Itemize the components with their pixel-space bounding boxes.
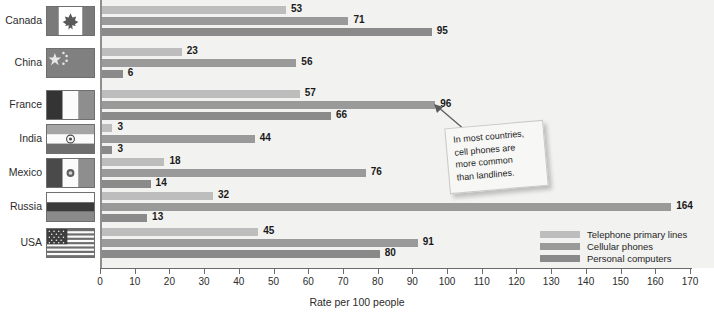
flag-china-icon — [46, 48, 95, 78]
bar — [102, 101, 435, 109]
bar — [102, 228, 258, 236]
country-label-russia: Russia — [0, 200, 42, 212]
bar-value-label: 76 — [371, 168, 382, 176]
legend: Telephone primary lines Cellular phones … — [540, 228, 687, 264]
x-tick — [274, 268, 275, 274]
x-tick-label: 80 — [372, 276, 383, 287]
legend-swatch-icon — [540, 255, 580, 262]
x-tick-label: 10 — [129, 276, 140, 287]
bar — [102, 48, 182, 56]
flag-canada-icon — [46, 6, 95, 36]
flag-india-icon — [46, 124, 95, 154]
bar-value-label: 3 — [117, 123, 123, 131]
x-tick — [516, 268, 517, 274]
x-tick-label: 70 — [337, 276, 348, 287]
bar-value-label: 18 — [169, 157, 180, 165]
x-tick-label: 40 — [233, 276, 244, 287]
bar — [102, 17, 348, 25]
bar — [102, 214, 147, 222]
bar-value-label: 13 — [152, 213, 163, 221]
callout-box: In most countries, cell phones are more … — [444, 120, 548, 194]
bar-value-label: 6 — [128, 69, 134, 77]
bar-value-label: 3 — [117, 145, 123, 153]
x-tick — [204, 268, 205, 274]
bar — [102, 203, 671, 211]
x-tick — [586, 268, 587, 274]
x-tick-label: 30 — [199, 276, 210, 287]
x-tick — [169, 268, 170, 274]
x-tick — [100, 268, 101, 274]
bar — [102, 112, 331, 120]
x-tick-label: 130 — [543, 276, 560, 287]
bar — [102, 250, 380, 258]
x-tick — [655, 268, 656, 274]
x-tick-label: 120 — [508, 276, 525, 287]
x-tick — [447, 268, 448, 274]
bar — [102, 59, 296, 67]
country-label-india: India — [0, 132, 42, 144]
bar-value-label: 164 — [676, 202, 693, 210]
x-tick — [412, 268, 413, 274]
x-tick-label: 20 — [164, 276, 175, 287]
x-tick — [378, 268, 379, 274]
legend-swatch-icon — [540, 231, 580, 238]
x-tick-label: 60 — [303, 276, 314, 287]
x-tick — [690, 268, 691, 274]
x-tick — [239, 268, 240, 274]
legend-label: Personal computers — [587, 253, 671, 264]
bar — [102, 90, 300, 98]
x-tick-label: 100 — [439, 276, 456, 287]
x-tick — [482, 268, 483, 274]
legend-label: Telephone primary lines — [587, 229, 687, 240]
country-label-france: France — [0, 98, 42, 110]
country-label-canada: Canada — [0, 14, 42, 26]
x-tick-label: 170 — [682, 276, 699, 287]
flag-mexico-icon — [46, 158, 95, 188]
x-tick-label: 150 — [612, 276, 629, 287]
chart-container: 5371952356657966634431876143216413459180… — [0, 0, 714, 321]
x-tick-label: 140 — [578, 276, 595, 287]
x-tick — [135, 268, 136, 274]
bar — [102, 239, 418, 247]
flag-russia-icon — [46, 192, 95, 222]
bar — [102, 158, 164, 166]
x-tick-label: 50 — [268, 276, 279, 287]
bar-value-label: 44 — [260, 134, 271, 142]
bar — [102, 192, 213, 200]
x-tick-label: 110 — [474, 276, 490, 287]
x-tick-label: 0 — [97, 276, 103, 287]
bar-value-label: 66 — [336, 111, 347, 119]
bar-value-label: 45 — [263, 227, 274, 235]
bar-value-label: 96 — [440, 100, 451, 108]
bar — [102, 169, 366, 177]
legend-label: Cellular phones — [587, 241, 653, 252]
bar-value-label: 53 — [291, 5, 302, 13]
bar — [102, 146, 112, 154]
x-tick-label: 160 — [647, 276, 664, 287]
bar-value-label: 23 — [187, 47, 198, 55]
x-tick — [551, 268, 552, 274]
x-tick — [308, 268, 309, 274]
bar — [102, 28, 432, 36]
country-label-usa: USA — [0, 236, 42, 248]
bar — [102, 6, 286, 14]
flag-usa-icon — [46, 228, 95, 258]
legend-item-telephone: Telephone primary lines — [540, 228, 687, 240]
x-tick — [621, 268, 622, 274]
bar-value-label: 14 — [156, 179, 167, 187]
bar-value-label: 32 — [218, 191, 229, 199]
bar-value-label: 71 — [353, 16, 364, 24]
bar — [102, 135, 255, 143]
bar-value-label: 80 — [385, 249, 396, 257]
x-axis-line — [100, 268, 692, 269]
legend-item-computers: Personal computers — [540, 252, 687, 264]
bar — [102, 70, 123, 78]
x-tick-label: 90 — [407, 276, 418, 287]
flag-france-icon — [46, 90, 95, 120]
bar-value-label: 95 — [437, 27, 448, 35]
bar-value-label: 91 — [423, 238, 434, 246]
bar — [102, 180, 151, 188]
x-axis-title: Rate per 100 people — [0, 296, 714, 308]
legend-item-cellular: Cellular phones — [540, 240, 687, 252]
bar-value-label: 57 — [305, 89, 316, 97]
